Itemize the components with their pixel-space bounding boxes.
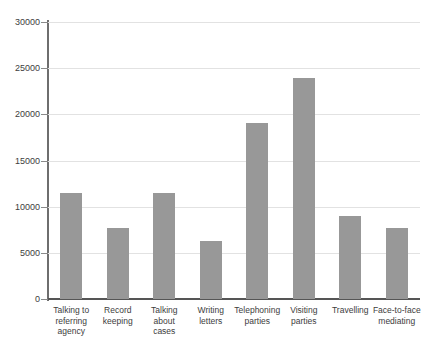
x-axis-label-line: Telephoning (231, 305, 283, 316)
x-axis-category-label: Recordkeeping (92, 305, 144, 326)
y-axis-tick-label: 10000 (2, 202, 40, 212)
y-axis-tick-label: 20000 (2, 109, 40, 119)
x-axis-category-label: Writingletters (185, 305, 237, 326)
y-axis-labels: 050001000015000200002500030000 (0, 22, 40, 299)
x-axis-labels: Talking toreferringagencyRecordkeepingTa… (48, 305, 420, 342)
gridline (48, 114, 420, 115)
bar (339, 216, 361, 299)
gridline (48, 207, 420, 208)
x-axis-label-line: parties (278, 316, 330, 327)
x-axis-category-label: Travelling (324, 305, 376, 316)
x-axis-category-label: Face-to-facemediating (371, 305, 423, 326)
bar (153, 193, 175, 299)
x-axis-label-line: Talking (138, 305, 190, 316)
plot-area (48, 22, 420, 299)
bar (293, 78, 315, 299)
x-axis-category-label: Talking toreferringagency (45, 305, 97, 337)
y-axis-tick (41, 253, 48, 254)
x-axis-label-line: about (138, 316, 190, 327)
y-axis-tick-label: 15000 (2, 156, 40, 166)
y-axis-tick (41, 22, 48, 23)
y-axis-tick-label: 0 (2, 294, 40, 304)
bar-chart: 050001000015000200002500030000 Talking t… (0, 0, 429, 342)
x-axis-label-line: referring (45, 316, 97, 327)
x-axis-label-line: Writing (185, 305, 237, 316)
x-axis-category-label: Visitingparties (278, 305, 330, 326)
bar (107, 228, 129, 299)
x-axis-category-label: Telephoningparties (231, 305, 283, 326)
x-axis-label-line: mediating (371, 316, 423, 327)
x-axis-label-line: parties (231, 316, 283, 327)
bar (200, 241, 222, 299)
y-axis-tick (41, 68, 48, 69)
bar (246, 123, 268, 299)
x-axis-label-line: keeping (92, 316, 144, 327)
chart-title-cropped (0, 0, 429, 3)
x-axis-label-line: letters (185, 316, 237, 327)
bar (60, 193, 82, 299)
x-axis-label-line: Visiting (278, 305, 330, 316)
y-axis-tick (41, 161, 48, 162)
gridline (48, 161, 420, 162)
y-axis-tick (41, 299, 48, 300)
y-axis-tick-label: 25000 (2, 63, 40, 73)
gridline (48, 22, 420, 23)
x-axis-label-line: cases (138, 326, 190, 337)
x-axis-label-line: Talking to (45, 305, 97, 316)
x-axis-label-line: Travelling (324, 305, 376, 316)
gridline (48, 68, 420, 69)
y-axis-tick (41, 207, 48, 208)
y-axis-tick (41, 114, 48, 115)
gridline (48, 253, 420, 254)
x-axis-baseline (48, 298, 420, 300)
x-axis-label-line: Record (92, 305, 144, 316)
y-axis-tick-label: 5000 (2, 248, 40, 258)
x-axis-label-line: agency (45, 326, 97, 337)
x-axis-label-line: Face-to-face (371, 305, 423, 316)
y-axis-tick-label: 30000 (2, 17, 40, 27)
bar (386, 228, 408, 299)
x-axis-category-label: Talkingaboutcases (138, 305, 190, 337)
